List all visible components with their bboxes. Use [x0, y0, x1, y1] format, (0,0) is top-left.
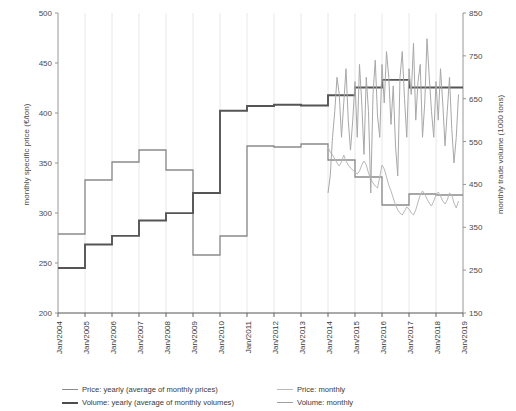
svg-text:450: 450 [39, 59, 53, 68]
svg-text:200: 200 [39, 309, 53, 318]
svg-text:Jan/2010: Jan/2010 [217, 320, 226, 353]
y-axis-left-ticks: 200250300350400450500 [39, 9, 58, 318]
y-axis-right-title: monthly trade volume (1000 tons) [496, 75, 505, 235]
legend-item-price-monthly: Price: monthly [277, 383, 462, 396]
legend-label-price-monthly: Price: monthly [297, 383, 345, 396]
svg-text:450: 450 [469, 180, 483, 189]
legend-swatch-price-monthly [277, 389, 293, 390]
svg-text:Jan/2005: Jan/2005 [82, 320, 91, 353]
chart-legend: Price: yearly (average of monthly prices… [62, 383, 462, 409]
svg-text:Jan/2013: Jan/2013 [298, 320, 307, 353]
svg-text:Jan/2012: Jan/2012 [271, 320, 280, 353]
svg-text:Jan/2004: Jan/2004 [55, 320, 64, 353]
svg-text:300: 300 [39, 209, 53, 218]
y-axis-right-ticks: 150250350450550650750850 [463, 9, 483, 318]
svg-text:250: 250 [469, 266, 483, 275]
svg-text:Jan/2019: Jan/2019 [460, 320, 469, 353]
legend-swatch-volume-yearly [62, 402, 78, 404]
legend-item-price-yearly: Price: yearly (average of monthly prices… [62, 383, 277, 396]
series-volume_yearly [58, 80, 463, 268]
y-axis-left-title: monthly specific price (€/ton) [22, 85, 31, 225]
legend-label-volume-monthly: Volume: monthly [297, 396, 353, 409]
legend-item-volume-monthly: Volume: monthly [277, 396, 462, 409]
legend-item-volume-yearly: Volume: yearly (average of monthly volum… [62, 396, 277, 409]
svg-text:650: 650 [469, 95, 483, 104]
svg-text:Jan/2007: Jan/2007 [136, 320, 145, 353]
legend-swatch-volume-monthly [277, 402, 293, 403]
svg-text:400: 400 [39, 109, 53, 118]
svg-text:Jan/2018: Jan/2018 [433, 320, 442, 353]
svg-text:Jan/2011: Jan/2011 [244, 320, 253, 353]
svg-text:350: 350 [469, 223, 483, 232]
svg-text:500: 500 [39, 9, 53, 18]
svg-text:Jan/2015: Jan/2015 [352, 320, 361, 353]
svg-text:Jan/2014: Jan/2014 [325, 320, 334, 353]
legend-swatch-price-yearly [62, 389, 78, 390]
series-price_yearly [58, 144, 463, 255]
legend-label-price-yearly: Price: yearly (average of monthly prices… [82, 383, 218, 396]
chart-figure: 200250300350400450500 150250350450550650… [0, 0, 516, 411]
svg-text:750: 750 [469, 52, 483, 61]
legend-label-volume-yearly: Volume: yearly (average of monthly volum… [82, 396, 234, 409]
svg-text:Jan/2008: Jan/2008 [163, 320, 172, 353]
x-axis-ticks: Jan/2004Jan/2005Jan/2006Jan/2007Jan/2008… [55, 313, 469, 354]
data-series-layer [58, 39, 463, 268]
svg-text:350: 350 [39, 159, 53, 168]
svg-text:Jan/2017: Jan/2017 [406, 320, 415, 353]
chart-canvas: 200250300350400450500 150250350450550650… [0, 0, 516, 411]
svg-text:Jan/2006: Jan/2006 [109, 320, 118, 353]
series-volume_monthly [328, 39, 459, 193]
svg-text:550: 550 [469, 138, 483, 147]
svg-text:Jan/2016: Jan/2016 [379, 320, 388, 353]
svg-text:150: 150 [469, 309, 483, 318]
svg-text:Jan/2009: Jan/2009 [190, 320, 199, 353]
svg-text:250: 250 [39, 259, 53, 268]
svg-text:850: 850 [469, 9, 483, 18]
